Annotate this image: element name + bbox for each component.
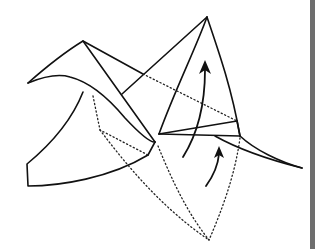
center-peak xyxy=(122,17,240,136)
large-fold-up-arrow-icon xyxy=(183,60,211,157)
small-fold-up-arrow-icon xyxy=(206,146,224,186)
page-edge-bar xyxy=(310,0,315,249)
left-flap xyxy=(28,41,155,155)
right-brim xyxy=(215,136,302,168)
origami-diagram xyxy=(0,0,318,249)
